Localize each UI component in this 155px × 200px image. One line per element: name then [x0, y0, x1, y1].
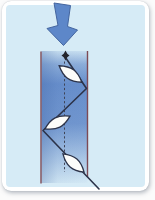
flow-diagram	[0, 0, 155, 200]
flow-down-arrow-icon	[47, 3, 78, 46]
